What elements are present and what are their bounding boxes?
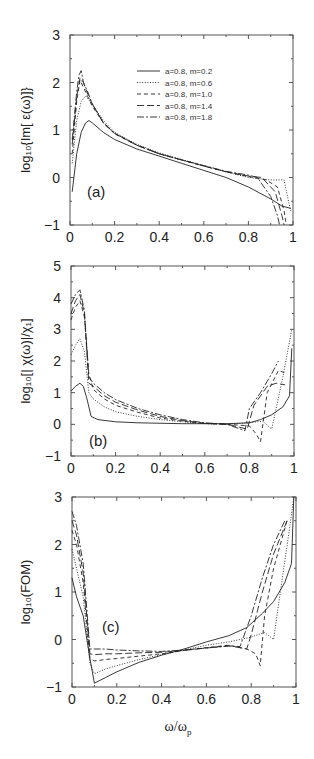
x-tick-label: 0.2: [106, 460, 126, 476]
panel-c: 00.20.40.60.81−10123 (c) log₁₀(FOM) ω/ωp: [18, 489, 300, 737]
panel-a-tick-labels: 00.20.40.60.81−10123: [44, 27, 297, 245]
x-tick-label: 0.6: [195, 460, 215, 476]
legend-entry-label: a=0.8, m=1.0: [165, 90, 213, 99]
x-tick-label: 0: [68, 691, 76, 707]
panel-b-curves: [71, 290, 292, 442]
x-axis-label-subscript: p: [187, 727, 192, 737]
x-tick-label: 0: [66, 229, 74, 245]
y-tick-label: 0: [52, 170, 60, 186]
x-tick-label: 1: [292, 691, 300, 707]
y-tick-label: −1: [44, 217, 60, 233]
legend-entry-label: a=0.8, m=1.4: [165, 102, 213, 111]
panel-c-label: (c): [102, 618, 120, 635]
x-axis-label-main: ω/ω: [165, 719, 187, 734]
panel-b-label: (b): [89, 432, 107, 449]
series-line: [72, 497, 294, 683]
x-tick-label: 0.6: [194, 229, 214, 245]
y-tick-label: 1: [53, 385, 61, 401]
y-tick-label: −1: [46, 679, 62, 695]
y-tick-label: 0: [54, 632, 62, 648]
x-tick-label: 0.2: [105, 229, 125, 245]
y-tick-label: 3: [54, 489, 62, 505]
series-line: [71, 290, 278, 431]
y-tick-label: 1: [54, 584, 62, 600]
y-tick-label: 0: [53, 416, 61, 432]
y-tick-label: 1: [52, 122, 60, 138]
panel-a-label: (a): [87, 183, 105, 200]
x-tick-label: 0.6: [197, 691, 217, 707]
panel-c-y-axis-label: log₁₀(FOM): [18, 560, 33, 625]
y-tick-label: 2: [53, 353, 61, 369]
x-tick-label: 0.2: [107, 691, 127, 707]
legend-entry-label: a=0.8, m=0.6: [165, 79, 213, 88]
x-tick-label: 0: [67, 460, 75, 476]
x-tick-label: 0.8: [240, 460, 260, 476]
series-line: [71, 348, 292, 423]
x-tick-label: 0.8: [241, 691, 261, 707]
panel-b: 00.20.40.60.81−1012345 (b) log₁₀[| χ(ω)|…: [18, 258, 298, 476]
panel-c-tick-labels: 00.20.40.60.81−10123: [46, 489, 300, 707]
y-tick-label: 2: [54, 537, 62, 553]
x-tick-label: 1: [289, 229, 297, 245]
figure: 00.20.40.60.81−10123 (a) log₁₀{Im[ ε(ω)]…: [0, 0, 314, 759]
legend-entry-label: a=0.8, m=1.8: [165, 113, 213, 122]
series-line: [72, 521, 287, 666]
y-tick-label: 3: [53, 321, 61, 337]
y-tick-label: 2: [52, 75, 60, 91]
legend-entry-label: a=0.8, m=0.2: [165, 67, 213, 76]
series-line: [72, 78, 284, 225]
panel-b-y-axis-label: log₁₀[| χ(ω)|/χ₁]: [18, 318, 33, 403]
series-line: [71, 295, 285, 430]
panel-a: 00.20.40.60.81−10123 (a) log₁₀{Im[ ε(ω)]…: [18, 27, 297, 245]
x-axis-label: ω/ωp: [165, 719, 192, 737]
legend: a=0.8, m=0.2a=0.8, m=0.6a=0.8, m=1.0a=0.…: [137, 67, 213, 122]
x-tick-label: 0.4: [150, 460, 170, 476]
x-tick-label: 0.4: [149, 229, 169, 245]
y-tick-label: 5: [53, 258, 61, 274]
panel-a-y-axis-label: log₁₀{Im[ ε(ω)]}: [18, 87, 33, 173]
x-tick-label: 0.8: [239, 229, 259, 245]
panel-b-tick-labels: 00.20.40.60.81−1012345: [45, 258, 298, 476]
x-tick-label: 1: [290, 460, 298, 476]
panel-c-curves: [72, 497, 294, 683]
x-tick-label: 0.4: [152, 691, 172, 707]
panel-b-ticks: [71, 266, 294, 456]
y-tick-label: −1: [45, 448, 61, 464]
y-tick-label: 3: [52, 27, 60, 43]
series-line: [71, 329, 292, 429]
panel-b-frame: [71, 266, 294, 456]
y-tick-label: 4: [53, 290, 61, 306]
